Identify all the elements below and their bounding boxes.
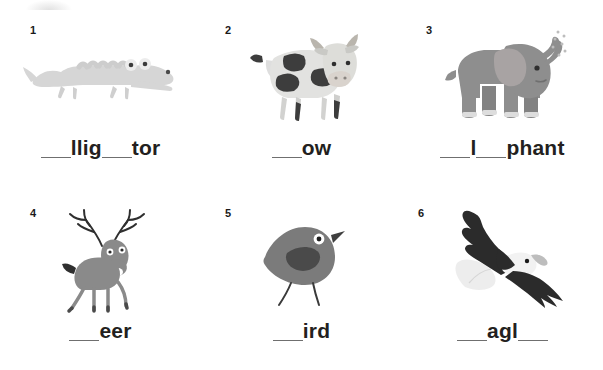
worksheet-item: 3 <box>402 0 603 185</box>
word-letters: ow <box>302 136 332 160</box>
blank-space[interactable] <box>518 323 548 341</box>
eagle-illustration <box>402 205 603 313</box>
worksheet-item: 6 agl <box>402 185 603 370</box>
word-with-blanks: lligtor <box>0 136 201 160</box>
worksheet-item: 4 <box>0 185 201 370</box>
worksheet-item: 2 <box>201 0 402 185</box>
worksheet-item: 5 ird <box>201 185 402 370</box>
deer-illustration <box>0 205 201 313</box>
blank-space[interactable] <box>272 140 302 158</box>
blank-space[interactable] <box>69 323 99 341</box>
word-with-blanks: agl <box>402 319 603 343</box>
elephant-illustration <box>402 26 603 126</box>
blank-space[interactable] <box>41 140 71 158</box>
worksheet-item-grid: 1 lligtor <box>0 0 603 370</box>
blank-space[interactable] <box>273 323 303 341</box>
word-letters: llig <box>71 136 102 160</box>
worksheet-page: 1 lligtor <box>0 0 603 370</box>
word-with-blanks: ird <box>201 319 402 343</box>
bird-illustration <box>201 205 402 313</box>
worksheet-item: 1 lligtor <box>0 0 201 185</box>
word-letters: tor <box>132 136 161 160</box>
word-letters: ird <box>303 319 330 343</box>
word-with-blanks: ow <box>201 136 402 160</box>
cow-illustration <box>201 26 402 126</box>
word-letters: phant <box>506 136 564 160</box>
word-letters: agl <box>487 319 518 343</box>
word-letters: eer <box>99 319 131 343</box>
blank-space[interactable] <box>457 323 487 341</box>
word-with-blanks: lphant <box>402 136 603 160</box>
blank-space[interactable] <box>476 140 506 158</box>
blank-space[interactable] <box>440 140 470 158</box>
blank-space[interactable] <box>102 140 132 158</box>
item-number: 5 <box>225 208 231 219</box>
word-with-blanks: eer <box>0 319 201 343</box>
alligator-illustration <box>0 26 201 126</box>
